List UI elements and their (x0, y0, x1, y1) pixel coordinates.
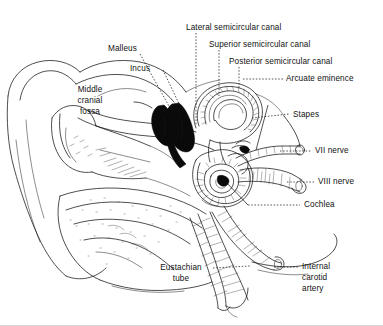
leader-malleus (140, 54, 170, 108)
leader-stapes (252, 114, 289, 118)
label-vii-nerve: VII nerve (315, 146, 349, 156)
leader-eustachian-tube (213, 266, 250, 268)
malleus-incus-ossicles (134, 102, 195, 168)
label-eustachian-tube-line2: tube (152, 274, 210, 284)
label-eustachian-tube-line1: Eustachian (152, 263, 210, 273)
label-middle-cranial-fossa-line3: fossa (58, 107, 122, 117)
cochlea-and-vestibule (193, 150, 253, 207)
label-posterior-semicircular-canal: Posterior semicircular canal (229, 57, 332, 67)
semicircular-canals (194, 83, 263, 164)
label-viii-nerve: VIII nerve (318, 177, 354, 187)
label-cochlea: Cochlea (304, 200, 335, 210)
label-stapes: Stapes (293, 110, 319, 120)
label-superior-semicircular-canal: Superior semicircular canal (209, 40, 310, 50)
label-lateral-semicircular-canal: Lateral semicircular canal (186, 23, 281, 33)
leader-lines (140, 33, 314, 268)
label-incus: Incus (130, 64, 150, 74)
label-arcuate-eminence: Arcuate eminence (286, 74, 354, 84)
label-internal-carotid-artery-line1: Internal (302, 262, 330, 272)
label-internal-carotid-artery-line3: artery (302, 284, 324, 294)
internal-carotid-artery-tube (212, 206, 284, 270)
label-malleus: Malleus (108, 44, 137, 54)
label-middle-cranial-fossa-line2: cranial (58, 96, 122, 106)
label-internal-carotid-artery-line2: carotid (302, 273, 327, 283)
ear-anatomy-figure: Lateral semicircular canal Superior semi… (0, 0, 383, 326)
label-middle-cranial-fossa-line1: Middle (58, 85, 122, 95)
